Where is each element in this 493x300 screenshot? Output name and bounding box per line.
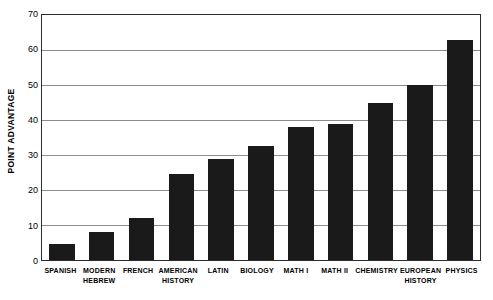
y-axis-tick-label: 10 — [20, 221, 38, 230]
bars-layer — [42, 15, 480, 260]
y-axis-title-text: POINT ADVANTAGE — [6, 88, 16, 173]
bar[interactable] — [288, 127, 313, 260]
x-axis-tick-label: CHEMISTRY — [354, 266, 399, 298]
bar[interactable] — [129, 218, 154, 260]
y-axis-tick-label: 60 — [20, 45, 38, 54]
bar[interactable] — [208, 159, 233, 261]
bar[interactable] — [49, 244, 74, 260]
bar[interactable] — [368, 103, 393, 261]
y-axis-tick-label: 50 — [20, 80, 38, 89]
bar[interactable] — [169, 174, 194, 260]
bar-chart: POINT ADVANTAGE 706050403020100 SPANISHM… — [0, 0, 493, 300]
bar-slot — [440, 15, 480, 260]
bar-slot — [361, 15, 401, 260]
x-axis-tick-label: AMERICANHISTORY — [157, 266, 198, 298]
y-axis-tick-label: 40 — [20, 115, 38, 124]
bar-slot — [42, 15, 82, 260]
x-axis-tick-label: MATH II — [315, 266, 354, 298]
x-axis-tick-label: LATIN — [199, 266, 238, 298]
bar[interactable] — [328, 124, 353, 261]
bar-slot — [241, 15, 281, 260]
x-axis-tick-label: MATH I — [276, 266, 315, 298]
bar-slot — [122, 15, 162, 260]
x-axis-tick-label: EUROPEANHISTORY — [399, 266, 442, 298]
bar[interactable] — [447, 40, 472, 261]
bar[interactable] — [407, 85, 432, 260]
y-axis-tick-label: 20 — [20, 186, 38, 195]
bar-slot — [400, 15, 440, 260]
x-axis-tick-label: SPANISH — [41, 266, 80, 298]
y-axis-tick-label: 70 — [20, 10, 38, 19]
bar-slot — [321, 15, 361, 260]
x-axis-tick-labels: SPANISHMODERNHEBREWFRENCHAMERICANHISTORY… — [41, 266, 481, 298]
bar[interactable] — [89, 232, 114, 260]
x-axis-tick-label: BIOLOGY — [238, 266, 277, 298]
y-axis-tick-label: 30 — [20, 151, 38, 160]
bar-slot — [281, 15, 321, 260]
y-axis-tick-label: 0 — [20, 257, 38, 266]
x-axis-tick-label: PHYSICS — [442, 266, 481, 298]
bar[interactable] — [248, 146, 273, 260]
y-axis-tick-labels: 706050403020100 — [20, 14, 38, 261]
y-axis-title: POINT ADVANTAGE — [0, 0, 22, 262]
x-axis-tick-label: MODERNHEBREW — [80, 266, 119, 298]
plot-area — [41, 14, 481, 261]
bar-slot — [82, 15, 122, 260]
x-axis-tick-label: FRENCH — [119, 266, 158, 298]
bar-slot — [201, 15, 241, 260]
bar-slot — [161, 15, 201, 260]
